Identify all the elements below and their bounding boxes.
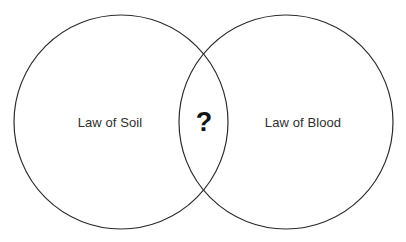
venn-label-right-set: Law of Blood	[265, 116, 341, 129]
venn-label-left-set: Law of Soil	[78, 116, 143, 129]
venn-diagram: Law of Soil Law of Blood ?	[0, 0, 406, 242]
venn-label-intersection: ?	[196, 109, 213, 136]
